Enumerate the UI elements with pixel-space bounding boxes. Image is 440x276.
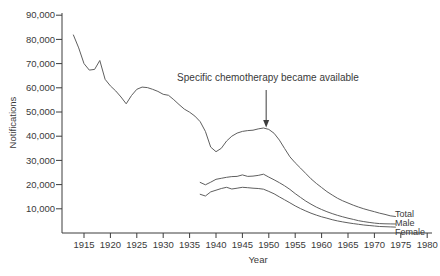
x-tick-label: 1930: [153, 239, 174, 250]
notifications-line-chart: 10,00020,00030,00040,00050,00060,00070,0…: [0, 0, 440, 276]
x-tick-label: 1950: [258, 239, 279, 250]
x-tick-label: 1915: [73, 239, 94, 250]
x-tick-label: 1925: [126, 239, 147, 250]
female-series-label: Female: [395, 227, 425, 237]
x-tick-label: 1965: [337, 239, 358, 250]
y-tick-label: 80,000: [26, 34, 55, 45]
chemotherapy-annotation: Specific chemotherapy became available: [163, 72, 373, 83]
axes: [62, 13, 432, 233]
annotation-arrow-head-icon: [263, 120, 269, 128]
x-tick-label: 1955: [285, 239, 306, 250]
y-tick-label: 20,000: [26, 179, 55, 190]
male-line: [200, 174, 395, 224]
x-tick-label: 1960: [311, 239, 332, 250]
total-line: [73, 35, 395, 217]
x-tick-label: 1980: [417, 239, 438, 250]
x-tick-label: 1945: [232, 239, 253, 250]
x-tick-label: 1940: [205, 239, 226, 250]
female-line: [200, 187, 395, 227]
x-axis-title: Year: [238, 254, 278, 265]
y-tick-label: 30,000: [26, 155, 55, 166]
y-tick-label: 10,000: [26, 203, 55, 214]
y-tick-label: 90,000: [26, 9, 55, 20]
y-tick-label: 70,000: [26, 58, 55, 69]
y-tick-label: 50,000: [26, 106, 55, 117]
y-tick-label: 40,000: [26, 130, 55, 141]
y-tick-label: 60,000: [26, 82, 55, 93]
x-tick-label: 1935: [179, 239, 200, 250]
y-axis-title: Notifications: [7, 83, 20, 163]
x-tick-label: 1975: [390, 239, 411, 250]
x-tick-label: 1970: [364, 239, 385, 250]
x-tick-label: 1920: [100, 239, 121, 250]
